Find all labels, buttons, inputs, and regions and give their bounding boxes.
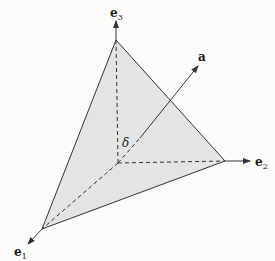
label-e1: e1 — [14, 245, 27, 261]
arrow-e1 — [28, 229, 42, 244]
simplex-face — [42, 40, 225, 229]
simplex-diagram: e1 e2 e3 a δ — [0, 0, 275, 261]
label-delta-angle: δ — [122, 136, 129, 150]
diagram-canvas: e1 e2 e3 a δ — [0, 0, 275, 261]
label-e3: e3 — [110, 6, 123, 22]
label-e2: e2 — [255, 155, 268, 171]
label-a: a — [198, 50, 206, 64]
